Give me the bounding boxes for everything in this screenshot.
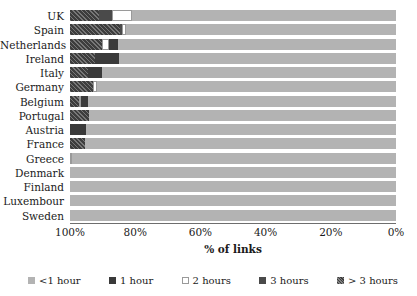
legend-swatch-icon [109, 277, 116, 284]
y-axis-label: Denmark [0, 166, 67, 180]
chart-row [70, 137, 396, 151]
y-axis-label: Greece [0, 152, 67, 166]
y-axis-label: Belgium [0, 95, 67, 109]
legend-label: 1 hour [120, 275, 153, 286]
bar-segment [112, 10, 132, 21]
legend-item[interactable]: 1 hour [109, 275, 153, 286]
legend-item[interactable]: 2 hours [182, 275, 231, 286]
bar-track [70, 53, 396, 64]
x-axis-tick-label: 0% [388, 226, 405, 238]
bar-segment [89, 110, 396, 121]
bar-segment [70, 124, 86, 135]
bar-track [70, 210, 396, 221]
bar-segment [99, 10, 112, 21]
bar-track [70, 67, 396, 78]
bar-segment [95, 53, 119, 64]
bar-segment [70, 67, 88, 78]
bar-segment [88, 67, 102, 78]
x-axis-tick-label: 100% [55, 226, 85, 238]
legend-label: 3 hours [270, 275, 308, 286]
bar-track [70, 96, 396, 107]
bar-track [70, 10, 396, 21]
chart-row [70, 123, 396, 137]
bar-segment [85, 138, 396, 149]
y-axis-label: Finland [0, 180, 67, 194]
x-axis-tick-label: 20% [319, 226, 342, 238]
chart-row [70, 23, 396, 37]
y-axis-label: Ireland [0, 52, 67, 66]
chart-row [70, 66, 396, 80]
bar-segment [102, 39, 109, 50]
x-axis-title: % of links [70, 243, 396, 255]
y-axis-label: France [0, 137, 67, 151]
bar-segment [70, 39, 102, 50]
bar-segment [70, 167, 396, 178]
y-axis-label: Netherlands [0, 38, 67, 52]
legend-swatch-icon [337, 277, 344, 284]
bar-track [70, 81, 396, 92]
bar-segment [81, 96, 88, 107]
x-axis-ticks: 100%80%60%40%20%0% [70, 226, 396, 242]
bar-segment [70, 195, 396, 206]
y-axis-label: Sweden [0, 209, 67, 223]
bar-segment [86, 124, 396, 135]
bar-segment [70, 210, 396, 221]
chart-row [70, 95, 396, 109]
bar-segment [70, 81, 93, 92]
x-axis-line [70, 223, 396, 224]
bar-segment [70, 110, 89, 121]
legend-item[interactable]: 3 hours [259, 275, 308, 286]
legend-label: <1 hour [39, 275, 81, 286]
bar-track [70, 110, 396, 121]
bar-segment [119, 53, 396, 64]
bar-segment [88, 96, 396, 107]
y-axis-labels: UKSpainNetherlandsIrelandItalyGermanyBel… [0, 9, 67, 223]
bar-track [70, 39, 396, 50]
bar-track [70, 153, 396, 164]
legend-item[interactable]: <1 hour [28, 275, 81, 286]
bar-segment [126, 24, 396, 35]
y-axis-label: UK [0, 9, 67, 23]
bar-segment [70, 96, 79, 107]
bar-segment [97, 81, 396, 92]
y-axis-label: Germany [0, 80, 67, 94]
chart-row [70, 9, 396, 23]
chart-row [70, 194, 396, 208]
bar-segment [70, 24, 120, 35]
legend-swatch-icon [28, 277, 35, 284]
chart-row [70, 152, 396, 166]
bar-segment [132, 10, 396, 21]
bar-track [70, 124, 396, 135]
legend-item[interactable]: > 3 hours [337, 275, 398, 286]
legend-swatch-icon [259, 277, 266, 284]
bar-segment [109, 39, 118, 50]
y-axis-label: Portugal [0, 109, 67, 123]
y-axis-label: Spain [0, 23, 67, 37]
stacked-bar-chart: UKSpainNetherlandsIrelandItalyGermanyBel… [0, 0, 417, 296]
chart-row [70, 109, 396, 123]
chart-row [70, 209, 396, 223]
bar-track [70, 24, 396, 35]
bar-segment [118, 39, 396, 50]
chart-row [70, 52, 396, 66]
bar-segment [72, 153, 396, 164]
bar-segment [70, 53, 95, 64]
legend-label: > 3 hours [348, 275, 398, 286]
bar-segment [102, 67, 396, 78]
legend-label: 2 hours [193, 275, 231, 286]
bar-track [70, 138, 396, 149]
bar-segment [70, 10, 99, 21]
y-axis-label: Luxembour [0, 194, 67, 208]
bar-segment [70, 181, 396, 192]
x-axis-tick-label: 60% [189, 226, 212, 238]
x-axis-tick-label: 80% [124, 226, 147, 238]
y-axis-label: Italy [0, 66, 67, 80]
chart-row [70, 80, 396, 94]
bar-track [70, 167, 396, 178]
chart-legend: <1 hour1 hour2 hours3 hours> 3 hours [28, 272, 398, 288]
chart-row [70, 38, 396, 52]
bar-track [70, 181, 396, 192]
y-axis-label: Austria [0, 123, 67, 137]
legend-swatch-icon [182, 277, 189, 284]
x-axis-tick-label: 40% [254, 226, 277, 238]
